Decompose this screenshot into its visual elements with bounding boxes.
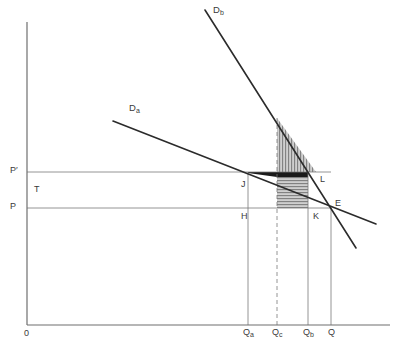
curve-label-da: Da	[129, 103, 140, 113]
diagram-canvas: 0 P′ P Qa Qc Qb Q Db Da T J H K L E	[0, 0, 400, 350]
point-label-l: L	[320, 175, 325, 184]
x-tick-qc-sub: c	[279, 331, 283, 338]
x-tick-q: Q	[328, 328, 335, 337]
curve-label-db: Db	[213, 5, 224, 15]
point-label-j: J	[241, 180, 246, 189]
curve-label-da-sub: a	[136, 107, 140, 114]
x-tick-qb-text: Q	[303, 327, 310, 337]
demand-curve-a	[113, 121, 376, 224]
point-label-k: K	[313, 212, 319, 221]
diagram-svg	[0, 0, 400, 350]
point-label-h: H	[241, 212, 248, 221]
curve-label-da-text: D	[129, 102, 136, 113]
curve-label-db-text: D	[213, 4, 220, 15]
y-tick-p: P	[10, 202, 16, 211]
region-label-t: T	[34, 185, 40, 194]
x-tick-qb: Qb	[303, 328, 314, 337]
y-tick-p-prime: P′	[10, 166, 18, 175]
point-label-e: E	[335, 199, 341, 208]
demand-curve-b	[205, 10, 356, 248]
shaded-region-vertical-hatch	[277, 118, 316, 172]
axes	[27, 22, 390, 325]
x-tick-qb-sub: b	[310, 331, 314, 338]
shaded-region-black-triangle	[248, 172, 308, 177]
x-tick-qa-text: Q	[243, 327, 250, 337]
shaded-region-horizontal-hatch	[277, 172, 308, 208]
y-tick-p-prime-sub: ′	[16, 165, 18, 175]
origin-label: 0	[24, 329, 29, 338]
curve-label-db-sub: b	[220, 9, 224, 16]
y-tick-p-text: P	[10, 201, 16, 211]
x-tick-q-text: Q	[328, 327, 335, 337]
x-tick-qa: Qa	[243, 328, 254, 337]
x-tick-qa-sub: a	[250, 331, 254, 338]
x-tick-qc: Qc	[272, 328, 283, 337]
x-tick-qc-text: Q	[272, 327, 279, 337]
